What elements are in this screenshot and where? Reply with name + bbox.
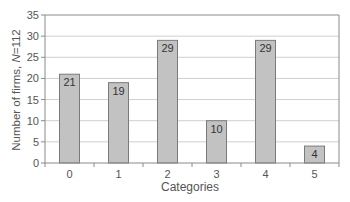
bar-value-label: 19 [112, 85, 124, 97]
y-tick-label: 20 [27, 72, 39, 84]
bar-2 [158, 40, 178, 163]
bar-value-label: 29 [259, 42, 271, 54]
bar-value-label: 21 [63, 76, 75, 88]
x-axis-ticks: 012345 [45, 163, 339, 180]
bar-value-label: 29 [161, 42, 173, 54]
x-tick-label: 3 [213, 168, 219, 180]
y-tick-label: 25 [27, 51, 39, 63]
y-tick-label: 0 [33, 157, 39, 169]
x-tick-label: 1 [115, 168, 121, 180]
y-tick-label: 35 [27, 9, 39, 21]
y-axis-label: Number of firms, N=112 [10, 29, 22, 151]
y-tick-label: 30 [27, 30, 39, 42]
bar-4 [256, 40, 276, 163]
x-tick-label: 5 [311, 168, 317, 180]
x-tick-label: 0 [66, 168, 72, 180]
x-tick-label: 4 [262, 168, 268, 180]
bar-value-label: 4 [311, 148, 317, 160]
y-axis-ticks: 05101520253035 [27, 9, 45, 169]
gridlines [45, 36, 339, 142]
y-tick-label: 5 [33, 136, 39, 148]
y-tick-label: 15 [27, 94, 39, 106]
axes [45, 15, 339, 163]
bar-value-label: 10 [210, 123, 222, 135]
bar-chart: 05101520253035 21192910294 012345 [0, 0, 350, 202]
x-axis-label: Categories [161, 180, 219, 194]
bars: 21192910294 [60, 40, 325, 163]
y-tick-label: 10 [27, 115, 39, 127]
x-tick-label: 2 [164, 168, 170, 180]
